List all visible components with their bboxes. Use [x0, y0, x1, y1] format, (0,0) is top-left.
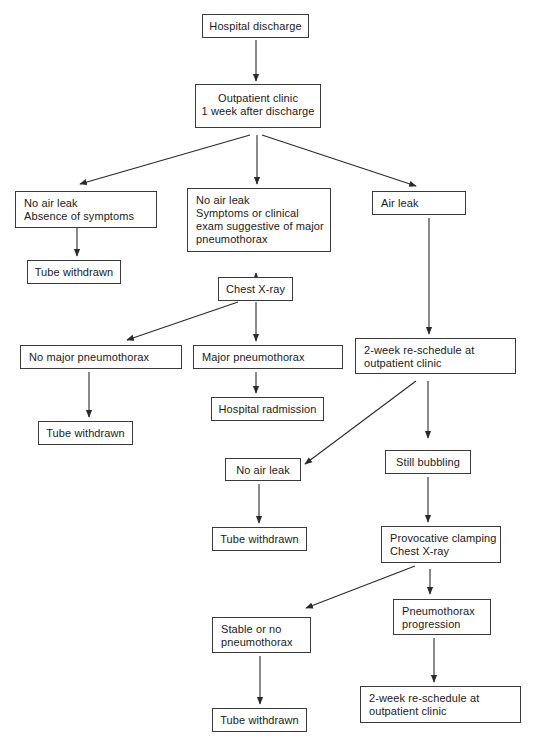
node-outpatient-clinic: Outpatient clinic 1 week after discharge	[195, 84, 321, 128]
node-label-line-2: outpatient clinic	[369, 705, 520, 718]
node-label-line-2: Symptoms or clinical	[196, 207, 330, 220]
node-label-line-2: pneumothorax	[221, 636, 310, 649]
node-reschedule-1: 2-week re-schedule at outpatient clinic	[355, 338, 516, 374]
node-label-line-1: Stable or no	[221, 623, 310, 636]
arrow-chest-xray-to-no-major	[127, 302, 238, 340]
node-provocative-clamping: Provocative clamping Chest X-ray	[381, 526, 501, 563]
node-tube-withdrawn-2: Tube withdrawn	[38, 421, 133, 445]
node-label-line-2: progression	[402, 618, 490, 631]
node-hospital-discharge: Hospital discharge	[202, 14, 309, 38]
node-chest-xray: Chest X-ray	[218, 277, 293, 301]
node-reschedule-2: 2-week re-schedule at outpatient clinic	[360, 686, 521, 723]
node-label: Tube withdrawn	[213, 533, 306, 546]
node-label: No major pneumothorax	[29, 351, 181, 364]
node-label-line-2: Chest X-ray	[390, 545, 500, 558]
node-label: No air leak	[226, 464, 300, 477]
node-no-air-leak-symptoms: No air leak Symptoms or clinical exam su…	[187, 188, 331, 252]
node-hospital-readmission: Hospital radmission	[211, 397, 324, 421]
node-label: Tube withdrawn	[213, 714, 306, 727]
node-label-line-1: Provocative clamping	[390, 532, 500, 545]
node-label: Still bubbling	[386, 456, 470, 469]
node-no-major-pneumothorax: No major pneumothorax	[20, 345, 182, 369]
node-label-line-3: exam suggestive of major	[196, 220, 330, 233]
node-label-line-2: 1 week after discharge	[196, 105, 320, 118]
node-label: Air leak	[381, 197, 465, 210]
node-no-air-leak-2: No air leak	[225, 458, 301, 481]
node-major-pneumothorax: Major pneumothorax	[193, 345, 343, 369]
node-tube-withdrawn-3: Tube withdrawn	[212, 527, 307, 551]
node-label: Hospital discharge	[203, 20, 308, 33]
arrow-clinic-to-no-leak-no-symptoms	[80, 135, 250, 184]
node-still-bubbling: Still bubbling	[385, 450, 471, 474]
node-label-line-1: No air leak	[24, 197, 156, 210]
node-label-line-1: 2-week re-schedule at	[364, 344, 515, 357]
node-label-line-2: outpatient clinic	[364, 357, 515, 370]
node-label: Tube withdrawn	[28, 266, 120, 279]
node-label-line-1: Outpatient clinic	[196, 92, 320, 105]
node-label: Tube withdrawn	[39, 427, 132, 440]
arrow-clinic-to-air-leak	[262, 135, 416, 186]
node-label-line-1: No air leak	[196, 194, 330, 207]
node-no-air-leak-no-symptoms: No air leak Absence of symptoms	[15, 191, 157, 228]
node-label: Hospital radmission	[212, 403, 323, 416]
node-label-line-4: pneumothorax	[196, 233, 330, 246]
node-tube-withdrawn-4: Tube withdrawn	[212, 708, 307, 732]
node-label: Major pneumothorax	[202, 351, 342, 364]
node-label-line-2: Absence of symptoms	[24, 210, 156, 223]
node-tube-withdrawn-1: Tube withdrawn	[27, 260, 121, 284]
node-label-line-1: 2-week re-schedule at	[369, 692, 520, 705]
node-stable-or-no-pneumothorax: Stable or no pneumothorax	[212, 617, 311, 653]
node-label: Chest X-ray	[219, 283, 292, 296]
node-pneumothorax-progression: Pneumothorax progression	[393, 599, 491, 635]
node-label-line-1: Pneumothorax	[402, 605, 490, 618]
node-air-leak: Air leak	[372, 191, 466, 215]
